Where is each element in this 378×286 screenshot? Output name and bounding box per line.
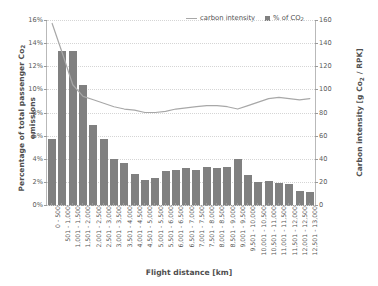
y-axis-right-tick [315,66,318,67]
x-axis-tick-label: 10,501 - 11,000 [270,206,277,255]
x-axis-tick [51,203,52,206]
y-axis-right-tick [315,89,318,90]
x-axis-tick-label: 3,501 - 4,000 [126,206,133,248]
legend-line-marker [186,18,197,19]
x-axis-tick [165,203,166,206]
x-axis-tick [175,203,176,206]
y-axis-left-tick-label: 2% [33,178,43,186]
subscript-2: 2 [359,77,365,81]
y-axis-right-tick-label: 20 [319,178,327,186]
y-axis-left-tick-label: 0% [33,201,43,209]
x-axis-tick-label: 4,001 - 4,500 [136,206,143,248]
y-axis-right-tick-label: 120 [319,62,332,70]
x-axis-tick [257,203,258,206]
x-axis-tick [195,203,196,206]
y-axis-right-tick-label: 40 [319,155,327,163]
y-axis-right-tick [315,113,318,114]
x-axis-tick-label: 501 - 1,000 [64,206,71,242]
x-axis-tick [309,203,310,206]
y-axis-right-tick [315,43,318,44]
x-axis-tick-label: 11,501 - 12,000 [291,206,298,255]
x-axis-tick [247,203,248,206]
y-axis-right-tick-label: 60 [319,132,327,140]
x-axis-tick-label: 0 - 500 [54,206,61,228]
x-axis-tick-label: 7,501 - 8,000 [208,206,215,248]
x-axis-tick-label: 8,501 - 9,000 [229,206,236,248]
x-axis-tick [216,203,217,206]
x-axis-tick-label: 12,001 - 12,500 [301,206,308,255]
x-axis-tick-label: 12,501 - 13,000 [311,206,318,255]
x-axis-tick [134,203,135,206]
y-axis-left-tick-label: 16% [28,16,43,24]
x-axis-tick [103,203,104,206]
x-axis-tick [299,203,300,206]
x-axis-tick-label: 6,001 - 6,500 [177,206,184,248]
y-axis-right-tick [315,182,318,183]
y-axis-left-tick-label: 8% [33,109,43,117]
x-axis-tick-label: 1,501 - 2,000 [84,206,91,248]
x-axis-tick-label: 9,501 - 10,000 [249,206,256,252]
y-axis-right-tick-label: 100 [319,85,332,93]
x-axis-tick [185,203,186,206]
chart-container: Percentage of total passenger Co2 emissi… [0,0,378,286]
x-axis-tick-label: 5,501 - 6,000 [167,206,174,248]
x-axis-tick-label: 9,001 - 9,500 [239,206,246,248]
y-axis-right-tick [315,159,318,160]
x-axis-tick-label: 4,501 - 5,000 [146,206,153,248]
subscript-2: 2 [20,45,26,49]
x-axis-tick [237,203,238,206]
y-axis-left-tick-label: 10% [28,85,43,93]
y-axis-right-tick [315,136,318,137]
x-axis-tick [154,203,155,206]
carbon-intensity-line [52,23,310,112]
x-axis-tick-label: 11,001 - 11,500 [280,206,287,255]
x-axis-tick [92,203,93,206]
x-axis-tick-label: 2,001 - 2,500 [95,206,102,248]
x-axis-tick [278,203,279,206]
y-axis-right-tick-label: 140 [319,39,332,47]
x-axis-tick [61,203,62,206]
x-axis-tick [268,203,269,206]
x-axis-tick-label: 1,001 - 1,500 [74,206,81,248]
x-axis-tick [226,203,227,206]
x-axis-tick [206,203,207,206]
x-axis-tick-label: 7,001 - 7,500 [198,206,205,248]
x-axis-tick [113,203,114,206]
x-axis-title: Flight distance [km] [0,268,378,277]
x-axis-tick-label: 10,001 - 10,500 [260,206,267,255]
x-axis-tick-label: 2,501 - 3,000 [105,206,112,248]
x-axis-labels: 0 - 500501 - 1,0001,001 - 1,5001,501 - 2… [46,206,314,266]
x-axis-tick-label: 5,001 - 5,500 [157,206,164,248]
y-axis-right-tick [315,20,318,21]
x-axis-tick [123,203,124,206]
y-axis-left-tick-label: 6% [33,132,43,140]
plot-area: 0%02%204%406%608%8010%10012%12014%14016%… [46,20,316,206]
y-axis-right-tick-label: 160 [319,16,332,24]
x-axis-tick [82,203,83,206]
x-axis-tick-label: 8,001 - 8,500 [218,206,225,248]
line-series [47,20,315,205]
y-axis-right-tick-label: 80 [319,109,327,117]
x-axis-tick [72,203,73,206]
x-axis-tick-label: 6,501 - 7,000 [188,206,195,248]
x-axis-tick-label: 3,001 - 3,500 [115,206,122,248]
y-axis-right-title: Carbon intensity [g Co2 / RPK] [355,18,364,208]
y-axis-right-tick-label: 0 [319,201,323,209]
y-axis-left-tick-label: 12% [28,62,43,70]
x-axis-tick [288,203,289,206]
y-axis-left-tick-label: 4% [33,155,43,163]
y-axis-left-tick-label: 14% [28,39,43,47]
x-axis-tick [144,203,145,206]
